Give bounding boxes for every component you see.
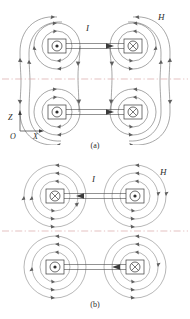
conductor-a-bottom-left: [48, 105, 66, 119]
label-current-b: I: [91, 174, 96, 184]
panel-b-drawing: I H: [0, 160, 190, 310]
panel-a-drawing: I H Z O X: [0, 0, 190, 145]
axis-label-o: O: [10, 132, 16, 141]
caption-b: (b): [0, 300, 190, 309]
axis-label-z: Z: [8, 113, 13, 122]
label-field-b: H: [159, 167, 167, 177]
field-lines-a-outer: [20, 17, 170, 145]
caption-a: (a): [0, 141, 190, 150]
field-lines-a-top-left: [34, 23, 80, 112]
conductor-b-top-left: [46, 189, 64, 203]
conductor-b-bottom-left: [46, 260, 64, 274]
field-arrowheads-a: [18, 15, 173, 145]
label-current-a: I: [85, 23, 90, 33]
field-arrowheads-b: [21, 163, 168, 299]
current-arrow-b-top: [76, 193, 84, 198]
conductor-b-bottom-right: [126, 260, 144, 274]
panel-a: I H Z O X: [0, 0, 190, 145]
conductor-wire-b-top: [60, 194, 130, 199]
label-field-a: H: [157, 12, 165, 22]
conductor-a-bottom-right: [124, 105, 142, 119]
panel-b: I H: [0, 160, 190, 310]
figure-root: I H Z O X (a): [0, 0, 190, 319]
current-arrow-b-bottom: [112, 264, 120, 269]
conductor-a-top-right: [124, 39, 142, 53]
conductor-a-top-left: [48, 39, 66, 53]
field-lines-a-top-right: [110, 23, 156, 112]
conductor-b-top-right: [126, 189, 144, 203]
